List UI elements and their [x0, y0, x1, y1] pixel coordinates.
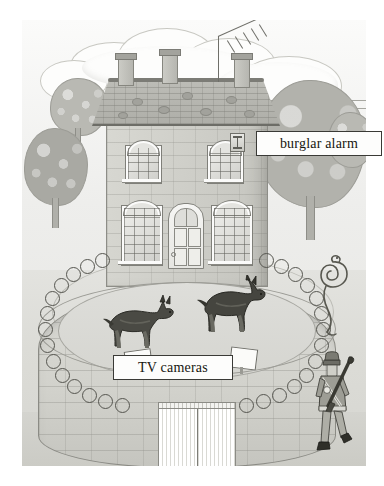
window-lower-left-sill — [118, 261, 162, 264]
roof-texture-spot-5 — [226, 96, 237, 104]
razor-wire-coil — [274, 259, 289, 274]
tv-antenna-mast — [218, 36, 219, 82]
roof-texture-spot-6 — [244, 110, 255, 118]
razor-wire-coil — [115, 398, 130, 413]
tv-camera-right-mount — [240, 367, 243, 374]
front-door-fanlight — [174, 208, 198, 227]
razor-wire-coil — [46, 354, 61, 369]
front-door-panel-right-lower — [188, 248, 201, 266]
window-upper-left — [126, 146, 161, 183]
window-lower-left-panes — [124, 208, 160, 263]
front-door-panel-left-lower — [174, 248, 187, 266]
razor-wire-coil — [288, 267, 303, 282]
roof-texture-spot-7 — [118, 112, 128, 119]
guard-dog-right — [192, 275, 270, 339]
razor-wire-coil — [40, 338, 55, 353]
perimeter-gate[interactable] — [158, 408, 236, 466]
callout-burglar-alarm-label: burglar alarm — [280, 136, 358, 152]
razor-wire-coil — [54, 278, 69, 293]
razor-wire-coil — [67, 379, 82, 394]
tree-left-front — [24, 128, 88, 206]
chimney-right — [234, 56, 250, 88]
roof-texture-spot-1 — [132, 98, 143, 106]
window-upper-right-panes — [210, 148, 241, 181]
coiled-snake — [308, 248, 354, 340]
razor-wire-coil — [239, 398, 254, 413]
armed-guard — [308, 350, 360, 466]
razor-wire-coil — [287, 379, 302, 394]
window-lower-right-sill — [208, 261, 252, 264]
callout-burglar-alarm: burglar alarm — [256, 131, 382, 156]
callout-tv-cameras: TV cameras — [113, 355, 233, 380]
house-roof — [92, 80, 280, 126]
razor-wire-coil — [38, 322, 53, 337]
guard-dog-left — [100, 290, 178, 354]
burglar-alarm-box — [230, 133, 245, 152]
callout-tv-cameras-label: TV cameras — [138, 360, 208, 376]
razor-wire-coil — [95, 253, 110, 268]
tree-left-front-trunk — [52, 198, 59, 228]
razor-wire-coil — [98, 394, 113, 409]
chimney-left — [118, 56, 134, 86]
front-door-knob[interactable] — [171, 252, 176, 257]
chimney-left-cap — [115, 53, 137, 60]
chimney-middle — [162, 52, 178, 84]
security-house-illustration — [22, 20, 366, 466]
page-root: burglar alarm TV cameras — [0, 0, 384, 486]
chimney-middle-cap — [159, 49, 181, 56]
tree-right-big-trunk — [306, 196, 315, 240]
chimney-right-cap — [231, 53, 253, 60]
razor-wire-coil — [272, 388, 287, 403]
roof-texture-spot-4 — [200, 108, 212, 116]
front-door-panel-left-upper — [174, 228, 187, 247]
window-upper-left-sill — [122, 179, 161, 182]
roof-texture-spot-2 — [158, 106, 170, 114]
front-door[interactable] — [168, 203, 204, 269]
razor-wire-coil — [40, 306, 55, 321]
razor-wire-coil — [259, 253, 274, 268]
front-door-panel-right-upper — [188, 228, 201, 247]
razor-wire-coil — [256, 394, 271, 409]
window-lower-right-panes — [214, 208, 250, 263]
window-lower-right — [212, 206, 252, 265]
razor-wire-coil — [66, 267, 81, 282]
tv-camera-right — [229, 346, 258, 370]
razor-wire-coil — [45, 291, 60, 306]
window-upper-right-sill — [204, 179, 243, 182]
window-upper-left-panes — [128, 148, 159, 181]
razor-wire-coil — [82, 388, 97, 403]
roof-texture-spot-3 — [182, 92, 193, 100]
window-lower-left — [122, 206, 162, 265]
razor-wire-coil — [80, 259, 95, 274]
